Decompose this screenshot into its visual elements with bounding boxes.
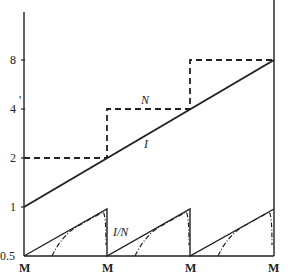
x-tick-label: M <box>19 261 30 275</box>
series-dotdash-curves <box>52 212 272 256</box>
chart: 8 4 2 1 0.5 ' M M M M N I I/N <box>0 0 293 280</box>
x-tick-label: M <box>268 261 279 275</box>
series-i-line <box>24 60 274 207</box>
y-tick-label: 2 <box>10 151 16 165</box>
stray-mark: ' <box>19 93 21 107</box>
y-tick-label: 1 <box>10 200 16 214</box>
label-i: I <box>143 137 149 151</box>
y-tick-label: 0.5 <box>0 249 15 263</box>
y-tick-label: 8 <box>10 53 16 67</box>
series-i-over-n-sawtooth <box>24 209 274 256</box>
series-n-dashed-step <box>24 60 274 158</box>
label-n: N <box>140 93 150 107</box>
x-tick-label: M <box>185 261 196 275</box>
x-tick-label: M <box>102 261 113 275</box>
label-i-over-n: I/N <box>112 225 129 239</box>
y-tick-label: 4 <box>10 102 16 116</box>
